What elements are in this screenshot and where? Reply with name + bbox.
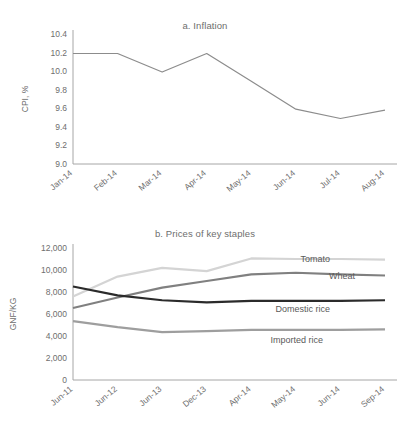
inflation-plot: 9.09.29.49.69.810.010.210.4CPI, %Jan-14F… [0, 0, 410, 222]
x-tick-label: Sep-14 [359, 384, 387, 409]
y-tick-label: 0 [62, 375, 67, 385]
panel-inflation: a. Inflation 9.09.29.49.69.810.010.210.4… [0, 0, 410, 222]
figure-two-panel-charts: a. Inflation 9.09.29.49.69.810.010.210.4… [0, 0, 410, 432]
series-label-imported-rice: Imported rice [270, 335, 323, 345]
x-tick-label: Jun-12 [93, 384, 120, 409]
y-tick-label: 4,000 [46, 331, 68, 341]
staple-prices-plot: 02,0004,0006,0008,00010,00012,000GNF/KGJ… [0, 222, 410, 432]
series-line-cpi [73, 54, 385, 119]
y-tick-label: 8,000 [46, 287, 68, 297]
series-label-domestic-rice: Domestic rice [275, 304, 330, 314]
series-line-domestic-rice [73, 287, 385, 303]
x-tick-label: Jul-14 [318, 168, 342, 191]
y-tick-label: 9.2 [55, 140, 67, 150]
y-tick-label: 9.4 [55, 122, 67, 132]
x-tick-label: Apr-14 [182, 168, 208, 192]
x-tick-label: Jun-14 [271, 168, 298, 193]
y-axis-label: GNF/KG [8, 298, 18, 331]
x-tick-label: Jun-13 [137, 384, 164, 409]
y-tick-label: 10.0 [50, 66, 67, 76]
y-tick-label: 9.6 [55, 103, 67, 113]
x-tick-label: Mar-14 [136, 168, 163, 193]
series-label-wheat: Wheat [329, 271, 356, 281]
axis-spines [73, 30, 397, 164]
y-axis-label: CPI, % [20, 85, 30, 112]
x-tick-label: Feb-14 [92, 168, 119, 193]
y-tick-label: 12,000 [41, 243, 67, 253]
x-tick-label: May-14 [224, 168, 252, 194]
x-tick-label: May-14 [269, 384, 297, 410]
y-tick-label: 10.2 [50, 48, 67, 58]
axis-spines [73, 244, 397, 380]
x-tick-label: Aug-14 [359, 168, 387, 193]
x-tick-label: Jun-14 [315, 384, 342, 409]
x-tick-label: Jan-14 [48, 168, 75, 193]
y-tick-label: 9.0 [55, 159, 67, 169]
series-label-tomato: Tomato [300, 254, 330, 264]
series-line-imported-rice [73, 321, 385, 332]
y-tick-label: 6,000 [46, 309, 68, 319]
y-tick-label: 9.8 [55, 85, 67, 95]
x-tick-label: Jun-11 [48, 384, 74, 408]
panel-staple-prices: b. Prices of key staples 02,0004,0006,00… [0, 222, 410, 432]
x-tick-label: Dec-13 [181, 384, 209, 409]
y-tick-label: 2,000 [46, 353, 68, 363]
y-tick-label: 10.4 [50, 29, 67, 39]
y-tick-label: 10,000 [41, 265, 67, 275]
x-tick-label: Apr-14 [227, 384, 253, 408]
